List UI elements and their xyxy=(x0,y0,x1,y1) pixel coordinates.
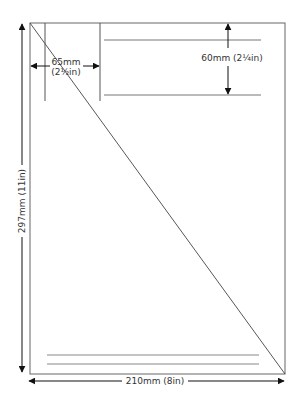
page-layout-diagram: 65mm (2½in) 60mm (2¼in) 297mm (11in) 210… xyxy=(0,0,301,410)
top-block-label: 60mm (2¼in) xyxy=(201,53,263,63)
left-margin-label-in: (2½in) xyxy=(51,67,81,77)
page-height-label: 297mm (11in) xyxy=(17,169,27,233)
left-margin-label-mm: 65mm xyxy=(52,57,81,67)
page-width-label: 210mm (8in) xyxy=(126,376,185,386)
